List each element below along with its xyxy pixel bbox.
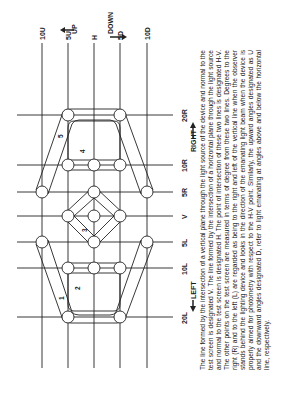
axis-label-20L: 20L: [181, 311, 188, 324]
down-label: DOWN: [107, 12, 114, 34]
down-arrowhead-icon: [122, 34, 127, 40]
right-arrowhead-icon: [190, 122, 196, 128]
left-arrowhead-icon: [190, 306, 196, 312]
point-H-5R: [88, 186, 100, 198]
point-5U-10L: [62, 262, 74, 274]
point-5D-20L: [114, 311, 126, 323]
zone-5-outline: [36, 109, 153, 194]
point-5U-20R: [62, 109, 74, 121]
zone-label-2: 2: [74, 286, 81, 290]
left-label: LEFT: [190, 281, 197, 299]
point-5D-V: [114, 210, 126, 222]
axis-label-5R: 5R: [181, 188, 188, 197]
zone-label-5: 5: [57, 134, 64, 138]
axis-label-10L: 10L: [181, 262, 188, 275]
caption-paragraph: The line formed by the intersection of a…: [199, 50, 271, 370]
point-5U-V: [62, 210, 74, 222]
point-10D-5R: [141, 186, 153, 198]
zone-label-4: 4: [79, 149, 86, 153]
point-H-V: [88, 210, 100, 222]
zone-label-1: 1: [58, 296, 65, 300]
point-5D-10L: [114, 262, 126, 274]
axis-label-10U: 10U: [39, 27, 46, 40]
point-H-5L: [88, 236, 100, 248]
photometric-test-screen-diagram: 5 4 3 2 1 10U 5U H 5D 10D UP DOWN 20R 10…: [0, 0, 296, 401]
right-indicator: RIGHT: [190, 122, 197, 152]
up-label: UP: [71, 24, 78, 34]
left-indicator: LEFT: [190, 281, 197, 312]
axis-label-10D: 10D: [144, 27, 151, 40]
point-5D-10R: [114, 159, 126, 171]
point-10U-5L: [36, 236, 48, 248]
up-arrowhead-icon: [60, 27, 65, 33]
axis-label-20R: 20R: [181, 109, 188, 122]
point-H-10R: [88, 159, 100, 171]
point-10U-5R: [36, 186, 48, 198]
rl-axis-labels: 20R 10R 5R V 5L 10L 20L: [181, 109, 188, 324]
ud-axis-labels: 10U 5U H 5D 10D: [39, 27, 151, 40]
axis-label-10R: 10R: [181, 159, 188, 172]
point-10D-5L: [141, 236, 153, 248]
axis-label-H: H: [91, 35, 98, 40]
ud-grid-lines: [42, 43, 147, 368]
point-5U-10R: [62, 159, 74, 171]
axis-label-5L: 5L: [181, 238, 188, 247]
axis-label-V: V: [181, 214, 188, 219]
zone-label-3: 3: [81, 228, 88, 232]
point-H-10L: [88, 262, 100, 274]
point-5D-20R: [114, 109, 126, 121]
point-5U-20L: [62, 311, 74, 323]
